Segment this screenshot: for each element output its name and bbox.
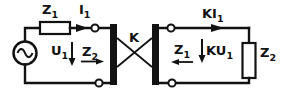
label-z2-load: Z2: [260, 45, 276, 63]
impedance-z2-load-box: [243, 43, 256, 78]
label-u1: U1: [51, 43, 68, 61]
ac-source-icon: [14, 42, 37, 65]
label-z1-looking-left: Z1: [174, 42, 190, 60]
label-z1-series: Z1: [42, 2, 58, 20]
voltage-arrow-u1: [69, 42, 76, 66]
current-arrow-i1: [76, 24, 88, 32]
impedance-z1-box: [40, 22, 70, 34]
circuit-svg: Z1 I1 U1 Z2 K KI1 Z1 KU1 Z2: [0, 0, 286, 95]
port-bar-left: [110, 24, 117, 85]
current-arrow-ki1: [211, 24, 224, 32]
terminal-right-top: [167, 24, 174, 31]
terminal-right-bottom: [168, 79, 175, 86]
label-ku1: KU1: [206, 43, 233, 61]
label-ki1: KI1: [202, 6, 224, 24]
label-i1: I1: [79, 2, 90, 20]
label-z2-looking-right: Z2: [82, 44, 98, 62]
voltage-arrow-ku1: [199, 39, 206, 63]
port-bar-right: [152, 24, 159, 85]
terminal-left-top: [91, 24, 98, 31]
label-k: K: [129, 30, 140, 45]
impedance-arrow-z1-left: [171, 59, 193, 65]
wire-left-top-corner: [25, 28, 40, 42]
terminal-left-bottom: [95, 79, 102, 86]
circuit-diagram: Z1 I1 U1 Z2 K KI1 Z1 KU1 Z2: [0, 0, 286, 95]
